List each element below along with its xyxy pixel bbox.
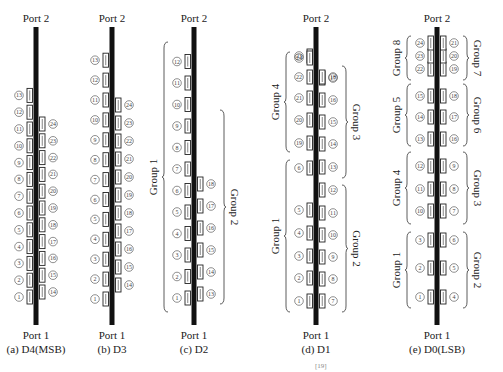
- svg-text:2: 2: [419, 265, 422, 271]
- svg-text:4: 4: [94, 236, 97, 242]
- svg-text:7: 7: [453, 208, 456, 214]
- svg-text:5: 5: [298, 207, 301, 213]
- svg-text:10: 10: [92, 117, 98, 123]
- svg-text:24: 24: [296, 55, 302, 61]
- svg-text:8: 8: [453, 186, 456, 192]
- svg-text:18: 18: [330, 74, 336, 80]
- svg-text:5: 5: [176, 209, 179, 215]
- svg-text:4: 4: [18, 244, 21, 250]
- svg-text:9: 9: [94, 137, 97, 143]
- svg-text:4: 4: [453, 294, 456, 300]
- transmission-line: [34, 27, 39, 325]
- svg-text:16: 16: [451, 136, 457, 142]
- port-1-label: Port 1: [424, 329, 451, 341]
- group-label: Group 5: [390, 96, 402, 133]
- group-label: Group 8: [390, 39, 402, 76]
- port-1-label: Port 1: [23, 329, 50, 341]
- svg-text:14: 14: [330, 141, 336, 147]
- svg-text:1: 1: [176, 295, 179, 301]
- svg-text:7: 7: [94, 177, 97, 183]
- svg-text:10: 10: [417, 208, 423, 214]
- group-label: Group 1: [269, 218, 281, 254]
- svg-text:2: 2: [176, 274, 179, 280]
- group-brace: [162, 42, 168, 312]
- port-2-label: Port 2: [99, 12, 126, 24]
- svg-text:21: 21: [296, 95, 302, 101]
- svg-text:18: 18: [50, 222, 56, 228]
- svg-text:15: 15: [417, 93, 423, 99]
- svg-text:2: 2: [298, 275, 301, 281]
- group-brace: [342, 185, 348, 312]
- group-brace: [463, 232, 469, 308]
- svg-text:14: 14: [417, 114, 423, 120]
- group-brace: [463, 152, 469, 224]
- panel-c: Port 2Port 1(c) D21234567891011121314151…: [147, 12, 242, 356]
- group-brace: [463, 36, 469, 80]
- svg-text:21: 21: [126, 156, 132, 162]
- port-1-label: Port 1: [303, 329, 330, 341]
- panel-b: Port 2Port 1(b) D31234567891011121314151…: [91, 12, 134, 356]
- svg-text:3: 3: [18, 260, 21, 266]
- svg-text:23: 23: [50, 138, 56, 144]
- svg-text:13: 13: [16, 92, 22, 98]
- group-label: Group 1: [147, 159, 159, 195]
- transmission-line: [435, 27, 440, 325]
- svg-text:13: 13: [330, 164, 336, 170]
- svg-text:6: 6: [453, 237, 456, 243]
- group-brace: [284, 160, 290, 312]
- svg-text:20: 20: [296, 117, 302, 123]
- port-2-label: Port 2: [424, 12, 451, 24]
- svg-text:6: 6: [298, 165, 301, 171]
- svg-text:13: 13: [208, 291, 214, 297]
- svg-text:10: 10: [174, 102, 180, 108]
- svg-text:2: 2: [18, 277, 21, 283]
- svg-text:13: 13: [92, 57, 98, 63]
- group-label: Group 3: [472, 170, 484, 207]
- svg-text:12: 12: [174, 59, 180, 65]
- panel-caption: (d) D1: [301, 343, 330, 356]
- group-label: Group 3: [351, 104, 363, 141]
- svg-text:16: 16: [330, 97, 336, 103]
- panel-caption: (a) D4(MSB): [7, 343, 66, 356]
- svg-text:11: 11: [330, 210, 336, 216]
- svg-text:11: 11: [16, 126, 22, 132]
- svg-text:11: 11: [92, 97, 98, 103]
- svg-text:3: 3: [94, 256, 97, 262]
- svg-text:7: 7: [18, 193, 21, 199]
- svg-text:15: 15: [330, 119, 336, 125]
- svg-text:10: 10: [330, 232, 336, 238]
- svg-text:9: 9: [453, 163, 456, 169]
- svg-text:20: 20: [50, 188, 56, 194]
- svg-text:11: 11: [174, 80, 180, 86]
- svg-text:12: 12: [417, 163, 423, 169]
- svg-text:1: 1: [419, 294, 422, 300]
- svg-text:16: 16: [50, 255, 56, 261]
- svg-text:19: 19: [451, 66, 457, 72]
- svg-text:16: 16: [126, 246, 132, 252]
- svg-text:17: 17: [50, 239, 56, 245]
- panel-d: Port 2Port 1(d) D11234561920212223247891…: [269, 12, 364, 356]
- svg-text:17: 17: [451, 114, 457, 120]
- svg-text:20: 20: [126, 174, 132, 180]
- svg-text:12: 12: [330, 187, 336, 193]
- figure-caption: [19]: [315, 362, 327, 370]
- svg-text:9: 9: [18, 160, 21, 166]
- svg-text:7: 7: [176, 166, 179, 172]
- svg-text:21: 21: [451, 40, 457, 46]
- svg-text:8: 8: [18, 176, 21, 182]
- svg-text:22: 22: [296, 74, 302, 80]
- svg-text:13: 13: [417, 136, 423, 142]
- svg-text:18: 18: [451, 93, 457, 99]
- group-brace: [405, 152, 411, 224]
- panel-caption: (c) D2: [180, 343, 208, 356]
- group-label: Group 4: [269, 83, 281, 120]
- group-brace: [405, 84, 411, 146]
- group-brace: [220, 110, 226, 304]
- svg-text:24: 24: [50, 121, 56, 127]
- port-2-label: Port 2: [23, 12, 50, 24]
- group-label: Group 2: [351, 230, 363, 266]
- svg-text:3: 3: [298, 253, 301, 259]
- svg-text:5: 5: [453, 265, 456, 271]
- svg-text:14: 14: [208, 269, 214, 275]
- group-label: Group 6: [472, 97, 484, 134]
